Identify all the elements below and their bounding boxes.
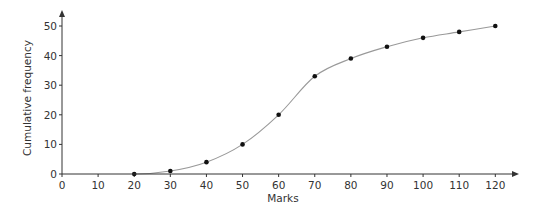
x-tick-label: 60 <box>272 179 285 191</box>
x-tick-label: 80 <box>344 179 357 191</box>
y-tick-label: 20 <box>44 109 57 121</box>
data-point-marker <box>240 142 245 147</box>
x-tick-label: 0 <box>59 179 66 191</box>
cumulative-frequency-curve <box>134 26 495 174</box>
y-tick-label: 40 <box>44 50 57 62</box>
x-axis-arrow-icon <box>512 171 519 177</box>
data-point-marker <box>312 74 317 79</box>
y-axis-label: Cumulative frequency <box>21 40 33 156</box>
x-tick-label: 110 <box>449 179 469 191</box>
data-point-marker <box>421 36 426 41</box>
x-tick-label: 50 <box>236 179 249 191</box>
cumulative-frequency-chart: 01020304050 0102030405060708090100110120… <box>0 0 536 215</box>
data-point-marker <box>349 56 354 61</box>
x-tick-label: 100 <box>413 179 433 191</box>
data-point-marker <box>276 113 281 118</box>
data-point-marker <box>385 44 390 49</box>
y-tick-label: 10 <box>44 138 57 150</box>
y-axis-arrow-icon <box>59 10 65 17</box>
data-point-marker <box>457 30 462 35</box>
x-tick-label: 10 <box>91 179 104 191</box>
x-axis-ticks: 0102030405060708090100110120 <box>59 174 506 191</box>
x-tick-label: 90 <box>380 179 393 191</box>
data-point-marker <box>168 169 173 174</box>
x-tick-label: 20 <box>128 179 141 191</box>
x-tick-label: 70 <box>308 179 321 191</box>
y-tick-label: 30 <box>44 79 57 91</box>
x-tick-label: 30 <box>164 179 177 191</box>
data-points <box>132 24 498 177</box>
x-tick-label: 40 <box>200 179 213 191</box>
y-tick-label: 0 <box>50 168 57 180</box>
data-point-marker <box>204 160 209 165</box>
y-axis-ticks: 01020304050 <box>44 20 62 180</box>
y-tick-label: 50 <box>44 20 57 32</box>
x-axis-label: Marks <box>267 192 298 204</box>
data-point-marker <box>493 24 498 29</box>
x-tick-label: 120 <box>485 179 505 191</box>
